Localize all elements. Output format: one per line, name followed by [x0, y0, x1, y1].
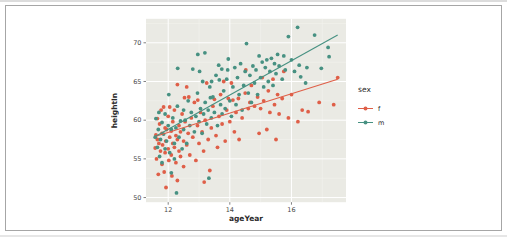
data-point-f [228, 120, 232, 124]
data-point-f [214, 134, 218, 138]
data-point-m [217, 63, 221, 67]
data-point-m [158, 155, 162, 159]
data-point-f [156, 172, 160, 176]
data-point-m [226, 57, 230, 61]
legend-title: sex [358, 85, 371, 94]
data-point-m [246, 91, 250, 95]
data-point-m [230, 114, 234, 118]
data-point-m [211, 95, 215, 99]
data-point-f [202, 180, 206, 184]
x-tick-label: 12 [164, 206, 172, 214]
data-point-m [263, 66, 267, 70]
data-point-f [167, 159, 171, 163]
data-point-f [179, 130, 183, 134]
data-point-f [265, 128, 269, 132]
data-point-m [313, 33, 317, 37]
data-point-f [336, 76, 340, 80]
legend-entry-m: m [358, 119, 384, 127]
data-point-m [186, 99, 190, 103]
data-point-m [236, 76, 240, 80]
y-axis-title: heightIn [110, 93, 119, 128]
data-point-f [268, 111, 272, 115]
data-point-m [262, 85, 266, 89]
data-point-f [185, 85, 189, 89]
data-point-m [210, 80, 214, 84]
data-point-m [327, 55, 331, 59]
x-tick-label: 14 [226, 206, 234, 214]
data-point-f [317, 101, 321, 105]
data-point-m [233, 66, 237, 70]
data-point-m [260, 60, 264, 64]
data-point-m [256, 93, 260, 97]
data-point-f [332, 103, 336, 107]
data-point-m [287, 35, 291, 39]
data-point-m [254, 68, 258, 72]
data-point-m [202, 112, 206, 116]
data-point-f [222, 80, 226, 84]
data-point-m [156, 145, 160, 149]
data-point-f [194, 159, 198, 163]
data-point-m [214, 73, 218, 77]
data-point-f [276, 93, 280, 97]
data-point-f [180, 112, 184, 116]
data-point-f [183, 96, 187, 100]
data-point-m [173, 157, 177, 161]
data-point-f [237, 138, 241, 142]
legend-label-f: f [378, 105, 381, 113]
data-point-m [270, 56, 274, 60]
data-point-m [297, 63, 301, 67]
y-tick-label: 70 [133, 39, 141, 47]
data-point-m [276, 53, 280, 57]
data-point-m [177, 135, 181, 139]
data-point-f [230, 81, 234, 85]
data-point-f [182, 139, 186, 143]
data-point-f [296, 120, 300, 124]
data-point-f [300, 108, 304, 112]
data-point-m [163, 147, 167, 151]
data-point-m [206, 108, 210, 112]
data-point-m [216, 124, 220, 128]
data-point-m [166, 124, 170, 128]
data-point-m [203, 51, 207, 55]
data-point-m [196, 53, 200, 57]
data-point-f [179, 155, 183, 159]
data-point-m [163, 112, 167, 116]
data-point-m [203, 101, 207, 105]
data-point-f [191, 135, 195, 139]
legend-key-point-m [364, 121, 368, 125]
data-point-f [176, 83, 180, 87]
data-point-m [282, 54, 286, 58]
data-point-f [266, 89, 270, 93]
data-point-m [193, 130, 197, 134]
data-point-m [217, 78, 221, 82]
data-point-f [237, 97, 241, 101]
figure-frame: 1214165055606570 ageYear heightIn sex f … [5, 5, 502, 231]
data-point-m [182, 108, 186, 112]
data-point-m [175, 191, 179, 195]
data-point-m [225, 77, 229, 81]
data-point-m [299, 75, 303, 79]
data-point-m [201, 80, 205, 84]
data-point-f [220, 122, 224, 126]
data-point-f [182, 165, 186, 169]
data-point-m [234, 103, 238, 107]
data-point-m [231, 85, 235, 89]
data-point-f [287, 116, 291, 120]
data-point-m [219, 103, 223, 107]
data-point-m [160, 161, 164, 165]
data-point-m [228, 99, 232, 103]
data-point-f [193, 101, 197, 105]
data-point-f [196, 98, 200, 102]
data-point-f [205, 81, 209, 85]
data-point-f [186, 131, 190, 135]
data-point-f [187, 95, 191, 99]
scatter-plot: 1214165055606570 ageYear heightIn sex f … [6, 6, 501, 230]
data-point-f [159, 149, 163, 153]
data-point-f [166, 114, 170, 118]
data-point-m [226, 68, 230, 72]
data-point-m [189, 111, 193, 115]
y-tick-label: 55 [133, 155, 141, 163]
data-point-f [157, 142, 161, 146]
legend-label-m: m [378, 119, 384, 127]
data-point-f [208, 169, 212, 173]
